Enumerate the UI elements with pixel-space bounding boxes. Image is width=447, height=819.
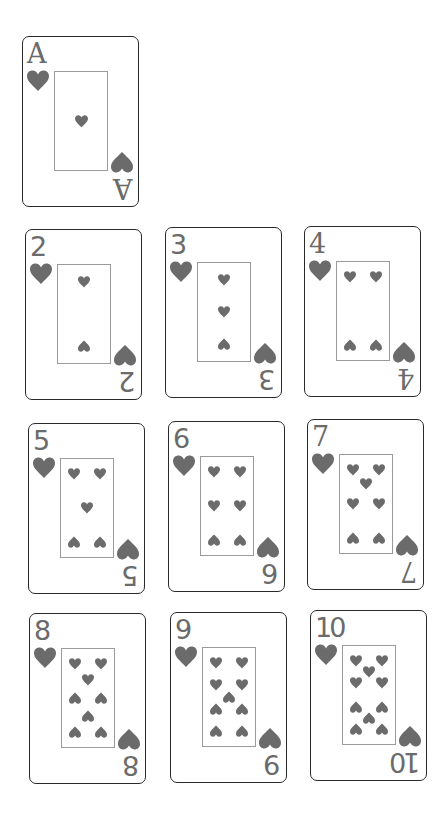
heart-icon [30, 263, 52, 285]
heart-icon [370, 339, 382, 351]
pip-frame [54, 71, 108, 171]
card-6-of-hearts[interactable]: 66 [168, 421, 285, 592]
heart-icon [376, 701, 388, 713]
heart-icon [350, 677, 362, 689]
rank-label-bottom: 10 [392, 749, 420, 776]
pip-frame [57, 264, 111, 364]
rank-label-bottom: 2 [121, 368, 135, 395]
heart-icon [210, 725, 222, 737]
heart-icon [210, 657, 222, 669]
heart-icon [114, 344, 136, 366]
heart-icon [376, 723, 388, 735]
heart-icon [173, 455, 195, 477]
rank-label-bottom: 8 [125, 752, 139, 779]
card-10-of-hearts[interactable]: 1010 [310, 610, 427, 781]
rank-label-top: 3 [170, 231, 184, 258]
heart-icon [259, 727, 281, 749]
heart-icon [360, 478, 372, 490]
rank-label-top: A [27, 40, 44, 67]
heart-icon [236, 703, 248, 715]
heart-icon [68, 536, 80, 548]
rank-label-bottom: 3 [261, 366, 275, 393]
rank-label-top: 6 [173, 425, 187, 452]
rank-label-bottom: 5 [124, 562, 138, 589]
heart-icon [376, 655, 388, 667]
card-3-of-hearts[interactable]: 33 [165, 227, 282, 398]
heart-icon [363, 666, 375, 678]
heart-icon [218, 338, 230, 350]
heart-icon [393, 341, 415, 363]
heart-icon [347, 498, 359, 510]
heart-icon [82, 710, 94, 722]
pip-frame [336, 261, 390, 361]
rank-label-top: 7 [312, 423, 326, 450]
heart-icon [69, 692, 81, 704]
rank-label-bottom: 7 [403, 558, 417, 585]
heart-icon [363, 712, 375, 724]
heart-icon [68, 468, 80, 480]
heart-icon [350, 701, 362, 713]
heart-icon [254, 342, 276, 364]
heart-icon [69, 726, 81, 738]
rank-label-bottom: 9 [266, 751, 280, 778]
heart-icon [78, 276, 90, 288]
heart-icon [170, 261, 192, 283]
pip-frame [339, 454, 393, 554]
heart-icon [373, 464, 385, 476]
heart-icon [312, 453, 334, 475]
card-2-of-hearts[interactable]: 22 [25, 229, 142, 400]
heart-icon [257, 536, 279, 558]
heart-icon [236, 679, 248, 691]
heart-icon [373, 498, 385, 510]
heart-icon [344, 339, 356, 351]
heart-icon [208, 466, 220, 478]
heart-icon [208, 500, 220, 512]
heart-icon [218, 306, 230, 318]
pip-frame [202, 647, 256, 747]
rank-label-bottom: 4 [400, 365, 414, 392]
heart-icon [309, 260, 331, 282]
card-7-of-hearts[interactable]: 77 [307, 419, 424, 590]
heart-icon [69, 658, 81, 670]
heart-icon [94, 536, 106, 548]
heart-icon [208, 534, 220, 546]
heart-icon [75, 115, 88, 128]
heart-icon [236, 657, 248, 669]
heart-icon [33, 457, 55, 479]
heart-icon [373, 532, 385, 544]
rank-label-top: 9 [175, 616, 189, 643]
heart-icon [27, 70, 49, 92]
heart-icon [82, 674, 94, 686]
card-8-of-hearts[interactable]: 88 [29, 613, 146, 784]
card-9-of-hearts[interactable]: 99 [170, 612, 287, 783]
card-5-of-hearts[interactable]: 55 [28, 423, 145, 594]
rank-label-top: 4 [309, 230, 323, 257]
heart-icon [344, 271, 356, 283]
pip-frame [197, 262, 251, 362]
heart-icon [347, 532, 359, 544]
heart-icon [94, 468, 106, 480]
heart-icon [234, 534, 246, 546]
heart-icon [370, 271, 382, 283]
heart-icon [95, 658, 107, 670]
heart-icon [399, 725, 421, 747]
heart-icon [111, 151, 133, 173]
heart-icon [210, 703, 222, 715]
heart-icon [95, 692, 107, 704]
card-4-of-hearts[interactable]: 44 [304, 226, 421, 397]
heart-icon [34, 647, 56, 669]
heart-icon [350, 723, 362, 735]
heart-icon [78, 340, 90, 352]
heart-icon [117, 538, 139, 560]
heart-icon [347, 464, 359, 476]
rank-label-top: 2 [30, 233, 44, 260]
heart-icon [175, 646, 197, 668]
rank-label-top: 10 [315, 614, 343, 641]
heart-icon [81, 502, 93, 514]
rank-label-bottom: A [116, 175, 133, 202]
pip-frame [60, 458, 114, 558]
heart-icon [236, 725, 248, 737]
heart-icon [396, 534, 418, 556]
card-a-of-hearts[interactable]: AA [22, 36, 139, 207]
heart-icon [118, 728, 140, 750]
